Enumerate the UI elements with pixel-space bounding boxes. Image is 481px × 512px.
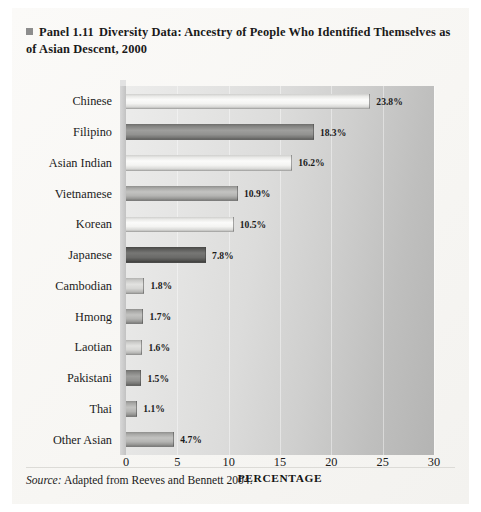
bar	[126, 155, 292, 171]
gridline	[331, 86, 332, 455]
bar	[126, 94, 370, 110]
bar-value-label: 10.5%	[240, 217, 266, 233]
bar	[126, 432, 174, 448]
bar	[126, 401, 137, 417]
bar-value-label: 16.2%	[298, 155, 324, 171]
source-note: Source: Adapted from Reeves and Bennett …	[26, 474, 253, 487]
bar-value-label: 1.8%	[150, 278, 172, 294]
source-label: Source:	[26, 474, 62, 487]
bar-row: 1.5%	[126, 370, 434, 386]
gridline	[229, 86, 230, 455]
bar-row: 16.2%	[126, 155, 434, 171]
bar-value-label: 1.1%	[143, 401, 165, 417]
bar-value-label: 18.3%	[320, 124, 346, 140]
bar-value-label: 23.8%	[376, 94, 402, 110]
category-label: Laotian	[74, 340, 112, 354]
bar-row: 4.7%	[126, 432, 434, 448]
panel-number: Panel 1.11	[39, 25, 94, 39]
bar-value-label: 10.9%	[244, 186, 270, 202]
gridline	[177, 86, 178, 455]
bar-row: 10.5%	[126, 217, 434, 233]
bar-row: 23.8%	[126, 94, 434, 110]
bar-row: 18.3%	[126, 124, 434, 140]
category-label: Vietnamese	[55, 187, 112, 201]
bar-value-label: 4.7%	[180, 432, 202, 448]
gridline	[280, 86, 281, 455]
category-label: Korean	[76, 217, 112, 231]
bar-row: 1.1%	[126, 401, 434, 417]
bar-row: 7.8%	[126, 247, 434, 263]
bar-row: 10.9%	[126, 186, 434, 202]
category-label: Chinese	[72, 94, 112, 108]
source-text: Adapted from Reeves and Bennett 2004.	[62, 474, 253, 487]
bar-value-label: 1.5%	[147, 370, 169, 386]
chart: ChineseFilipinoAsian IndianVietnameseKor…	[12, 70, 469, 460]
bar	[126, 309, 143, 325]
bar	[126, 247, 206, 263]
bar	[126, 217, 234, 233]
bar	[126, 278, 144, 294]
square-bullet-icon	[26, 28, 33, 35]
bar-row: 1.6%	[126, 340, 434, 356]
gridline	[434, 86, 435, 455]
plot-area: 23.8%18.3%16.2%10.9%10.5%7.8%1.8%1.7%1.6…	[126, 86, 434, 455]
category-axis: ChineseFilipinoAsian IndianVietnameseKor…	[12, 86, 118, 455]
bar	[126, 124, 314, 140]
category-label: Cambodian	[55, 279, 112, 293]
category-label: Filipino	[73, 125, 112, 139]
panel-title: Panel 1.11Diversity Data: Ancestry of Pe…	[26, 24, 456, 57]
bar-value-label: 7.8%	[212, 247, 234, 263]
category-label: Asian Indian	[49, 156, 112, 170]
category-label: Thai	[89, 402, 112, 416]
category-label: Pakistani	[67, 371, 112, 385]
bar-row: 1.7%	[126, 309, 434, 325]
bar	[126, 186, 238, 202]
bar-value-label: 1.7%	[149, 309, 171, 325]
category-label: Other Asian	[53, 433, 112, 447]
gridline	[383, 86, 384, 455]
bar	[126, 340, 142, 356]
footer-divider	[26, 467, 455, 468]
figure-panel: Panel 1.11Diversity Data: Ancestry of Pe…	[12, 8, 469, 504]
bar-value-label: 1.6%	[148, 340, 170, 356]
category-label: Hmong	[75, 310, 112, 324]
bar-row: 1.8%	[126, 278, 434, 294]
category-label: Japanese	[68, 248, 112, 262]
bar	[126, 370, 141, 386]
